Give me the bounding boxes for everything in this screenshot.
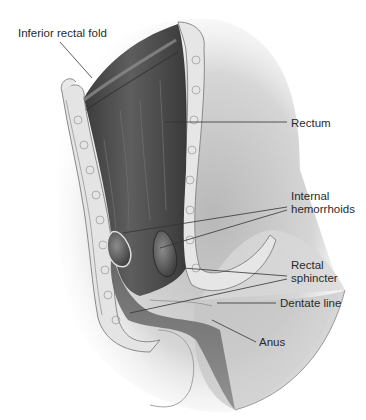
leader-line-inferior-rectal-fold bbox=[60, 42, 92, 78]
label-rectal-sphincter: Rectal sphincter bbox=[291, 259, 338, 285]
label-inferior-rectal-fold: Inferior rectal fold bbox=[18, 27, 107, 40]
label-dentate-line: Dentate line bbox=[280, 297, 341, 310]
label-text: Dentate line bbox=[280, 297, 341, 310]
label-anus: Anus bbox=[259, 336, 285, 349]
label-text: Inferior rectal fold bbox=[18, 27, 107, 40]
label-text: Anus bbox=[259, 336, 285, 349]
label-text: Rectum bbox=[291, 117, 331, 130]
label-text-line-2: sphincter bbox=[291, 272, 338, 285]
label-internal-hemorrhoids: Internal hemorrhoids bbox=[291, 190, 355, 216]
label-rectum: Rectum bbox=[291, 117, 331, 130]
label-text-line-1: Internal bbox=[291, 190, 355, 203]
label-text-line-1: Rectal bbox=[291, 259, 338, 272]
label-text-line-2: hemorrhoids bbox=[291, 203, 355, 216]
